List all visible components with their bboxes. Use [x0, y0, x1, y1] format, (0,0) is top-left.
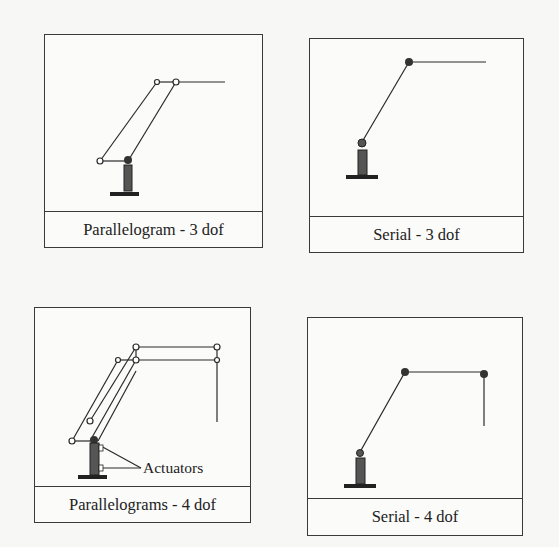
figure-parallelograms-4dof: Actuators Parallelograms - 4 dof — [34, 307, 251, 523]
actuators-label: Actuators — [143, 459, 203, 477]
figure-caption: Parallelograms - 4 dof — [35, 486, 250, 522]
figure-serial-3dof: Serial - 3 dof — [309, 38, 524, 253]
figure-caption: Parallelogram - 3 dof — [45, 211, 262, 247]
figure-parallelogram-3dof: Parallelogram - 3 dof — [44, 34, 263, 248]
figure-caption: Serial - 3 dof — [310, 216, 523, 252]
figure-caption: Serial - 4 dof — [308, 498, 522, 535]
figure-serial-4dof: Serial - 4 dof — [307, 317, 523, 536]
